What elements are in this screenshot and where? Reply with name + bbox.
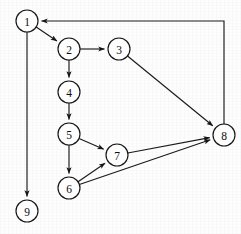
edge-6-to-8 <box>79 140 210 185</box>
nodes-layer: 123456789 <box>16 10 235 222</box>
graph-node-7[interactable]: 7 <box>106 144 128 166</box>
node-label-2: 2 <box>66 44 72 56</box>
graph-node-9[interactable]: 9 <box>16 200 38 222</box>
graph-node-4[interactable]: 4 <box>58 81 80 103</box>
graph-node-3[interactable]: 3 <box>108 38 130 60</box>
node-label-5: 5 <box>66 129 72 141</box>
graph-node-8[interactable]: 8 <box>213 124 235 146</box>
graph-drawing: 123456789 <box>0 0 241 234</box>
node-label-3: 3 <box>116 44 122 56</box>
node-label-8: 8 <box>221 130 227 142</box>
node-label-1: 1 <box>24 16 30 28</box>
node-label-4: 4 <box>66 87 72 99</box>
edge-6-to-7 <box>78 163 105 182</box>
graph-node-5[interactable]: 5 <box>58 123 80 145</box>
node-label-6: 6 <box>66 183 72 195</box>
edge-1-to-2 <box>36 27 57 41</box>
graph-node-6[interactable]: 6 <box>58 177 80 199</box>
edge-7-to-8 <box>128 138 210 153</box>
graph-canvas: 123456789 <box>0 0 241 234</box>
node-label-9: 9 <box>24 206 30 218</box>
edge-5-to-7 <box>79 138 104 149</box>
graph-node-1[interactable]: 1 <box>16 10 38 32</box>
node-label-7: 7 <box>114 150 120 162</box>
edge-3-to-8 <box>128 56 213 126</box>
graph-node-2[interactable]: 2 <box>58 38 80 60</box>
